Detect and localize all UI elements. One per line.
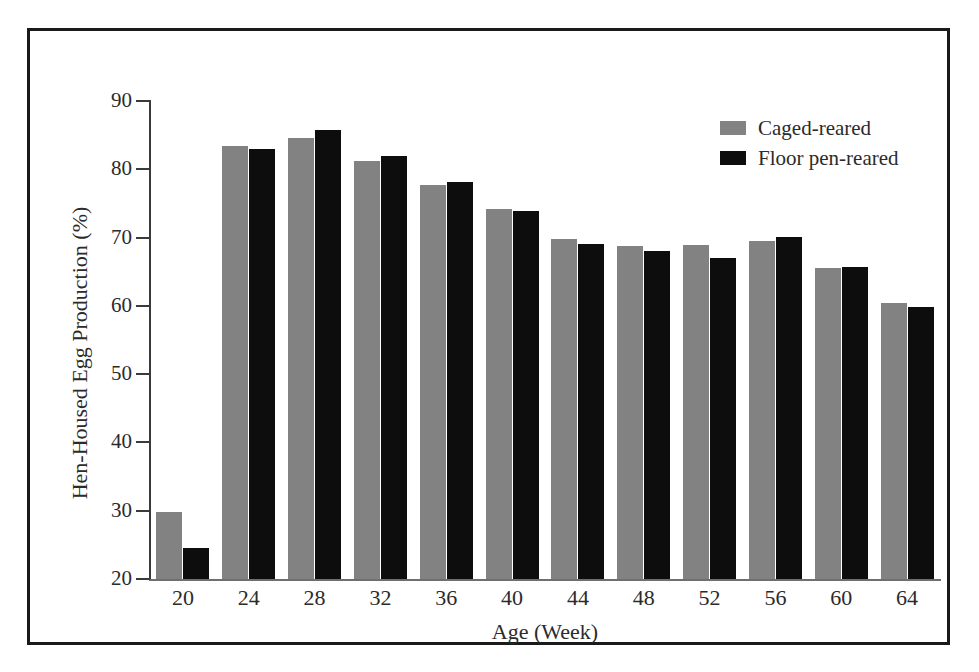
- bar-caged-reared: [288, 138, 314, 579]
- bar-group: [288, 101, 341, 579]
- y-axis-tick-label: 60: [88, 295, 132, 316]
- y-axis-tick-mark: [136, 305, 150, 307]
- x-axis-tick-label: 32: [348, 587, 414, 609]
- bar-group: [551, 101, 604, 579]
- bar-caged-reared: [420, 185, 446, 579]
- legend-label-caged-reared: Caged-reared: [758, 116, 871, 141]
- bar-caged-reared: [354, 161, 380, 579]
- bar-group: [354, 101, 407, 579]
- bar-group: [222, 101, 275, 579]
- chart-legend: Caged-reared Floor pen-reared: [720, 113, 899, 173]
- legend-label-floor-pen-reared: Floor pen-reared: [758, 146, 899, 171]
- y-axis-tick-label: 40: [88, 431, 132, 452]
- bar-caged-reared: [881, 303, 907, 579]
- y-axis-tick-mark: [136, 100, 150, 102]
- y-axis-tick-label: 90: [88, 90, 132, 111]
- bar-floor-pen-reared: [842, 267, 868, 579]
- bar-caged-reared: [222, 146, 248, 579]
- bar-floor-pen-reared: [776, 237, 802, 579]
- bar-floor-pen-reared: [644, 251, 670, 579]
- y-axis-tick-mark: [136, 510, 150, 512]
- bar-floor-pen-reared: [183, 548, 209, 579]
- x-axis-title: Age (Week): [150, 619, 940, 645]
- bar-floor-pen-reared: [381, 156, 407, 579]
- y-axis-tick-mark: [136, 237, 150, 239]
- bar-caged-reared: [551, 239, 577, 579]
- bar-group: [156, 101, 209, 579]
- bar-caged-reared: [815, 268, 841, 579]
- bar-floor-pen-reared: [447, 182, 473, 579]
- bar-caged-reared: [617, 246, 643, 579]
- x-axis-tick-label: 60: [808, 587, 874, 609]
- legend-swatch-icon-floor-pen-reared: [720, 151, 746, 165]
- x-axis-tick-label: 44: [545, 587, 611, 609]
- legend-swatch-icon-caged-reared: [720, 121, 746, 135]
- x-axis-tick-label: 52: [677, 587, 743, 609]
- bar-floor-pen-reared: [578, 244, 604, 579]
- bar-caged-reared: [156, 512, 182, 579]
- y-axis-tick-label: 70: [88, 227, 132, 248]
- y-axis-tick-mark: [136, 168, 150, 170]
- y-axis-tick-label: 50: [88, 363, 132, 384]
- x-axis-tick-label: 40: [479, 587, 545, 609]
- legend-entry-caged-reared: Caged-reared: [720, 113, 899, 143]
- bar-floor-pen-reared: [710, 258, 736, 579]
- x-axis-tick-label: 24: [216, 587, 282, 609]
- legend-entry-floor-pen-reared: Floor pen-reared: [720, 143, 899, 173]
- y-axis-tick-label: 80: [88, 158, 132, 179]
- bar-group: [486, 101, 539, 579]
- figure-frame: Hen-Housed Egg Production (%) 2030405060…: [27, 28, 950, 645]
- x-axis-tick-label: 20: [150, 587, 216, 609]
- bar-caged-reared: [683, 245, 709, 579]
- y-axis-tick-label: 30: [88, 500, 132, 521]
- x-axis-tick-label: 64: [874, 587, 940, 609]
- bar-caged-reared: [749, 241, 775, 579]
- bar-floor-pen-reared: [249, 149, 275, 579]
- bar-floor-pen-reared: [513, 211, 539, 579]
- x-axis-line: [149, 579, 941, 581]
- bar-group: [420, 101, 473, 579]
- x-axis-tick-label: 56: [743, 587, 809, 609]
- bar-group: [617, 101, 670, 579]
- x-axis-tick-label: 48: [611, 587, 677, 609]
- y-axis-tick-mark: [136, 373, 150, 375]
- x-axis-tick-label: 28: [282, 587, 348, 609]
- bar-floor-pen-reared: [908, 307, 934, 579]
- bar-floor-pen-reared: [315, 130, 341, 579]
- bar-caged-reared: [486, 209, 512, 579]
- x-axis-tick-label: 36: [413, 587, 479, 609]
- y-axis-tick-mark: [136, 578, 150, 580]
- y-axis-tick-mark: [136, 441, 150, 443]
- y-axis-tick-label: 20: [88, 568, 132, 589]
